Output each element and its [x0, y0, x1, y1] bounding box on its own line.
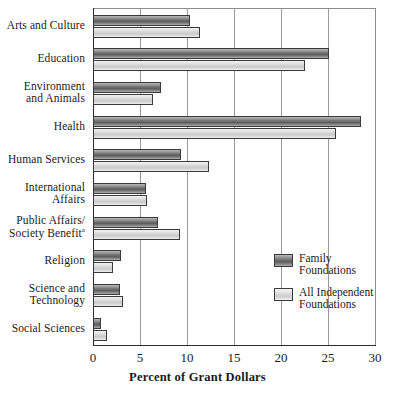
category-label: Education [0, 42, 85, 76]
bar-all-independent [93, 229, 180, 240]
category-label: Religion [0, 244, 85, 278]
x-axis-title: Percent of Grant Dollars [0, 370, 395, 385]
category-label: Health [0, 109, 85, 143]
bar-family [93, 284, 120, 295]
category-label: Human Services [0, 143, 85, 177]
bar-family [93, 149, 181, 160]
bar-family [93, 82, 161, 93]
bar-all-independent [93, 262, 113, 273]
x-axis-line [93, 345, 376, 346]
footnote-marker: a [82, 226, 85, 234]
x-tick-15: 15 [219, 350, 249, 366]
x-tick-25: 25 [313, 350, 343, 366]
bar-family [93, 116, 361, 127]
category-label: Social Sciences [0, 311, 85, 345]
category-labels: Arts and CultureEducationEnvironmentand … [0, 8, 89, 345]
bar-family [93, 250, 121, 261]
bar-family [93, 183, 146, 194]
legend-swatch-all-independent [274, 288, 293, 301]
category-label: Public Affairs/Society Benefita [0, 210, 85, 244]
bar-family [93, 217, 158, 228]
bar-all-independent [93, 161, 209, 172]
bar-family [93, 48, 329, 59]
bar-family [93, 15, 190, 26]
legend-swatch-family [274, 254, 293, 267]
category-label: Science andTechnology [0, 278, 85, 312]
category-label: Arts and Culture [0, 8, 85, 42]
x-tick-0: 0 [78, 350, 108, 366]
legend-label: FamilyFoundations [299, 252, 356, 277]
x-tick-30: 30 [360, 350, 390, 366]
bar-all-independent [93, 330, 107, 341]
bar-all-independent [93, 60, 305, 71]
grant-dollars-bar-chart: Arts and CultureEducationEnvironmentand … [0, 0, 395, 401]
category-label: InternationalAffairs [0, 177, 85, 211]
legend-label: All IndependentFoundations [299, 286, 373, 311]
bar-all-independent [93, 128, 336, 139]
bar-all-independent [93, 195, 147, 206]
legend-item: FamilyFoundations [274, 252, 394, 277]
bar-all-independent [93, 296, 123, 307]
bar-family [93, 318, 101, 329]
chart-legend: FamilyFoundationsAll IndependentFoundati… [274, 252, 394, 320]
legend-item: All IndependentFoundations [274, 286, 394, 311]
x-tick-10: 10 [172, 350, 202, 366]
category-label: Environmentand Animals [0, 75, 85, 109]
x-tick-20: 20 [266, 350, 296, 366]
bar-all-independent [93, 94, 153, 105]
x-tick-5: 5 [125, 350, 155, 366]
bar-all-independent [93, 27, 200, 38]
